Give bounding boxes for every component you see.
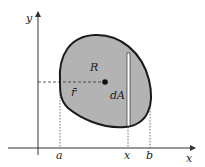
- strip-da: [127, 53, 130, 126]
- region-label: R: [89, 61, 98, 74]
- x-axis-label: x: [186, 152, 193, 165]
- strip-label: dA: [110, 89, 125, 102]
- area-centroid-diagram: y x R r̄ dA a x b: [0, 0, 205, 167]
- y-axis-label: y: [25, 12, 33, 25]
- centroid-point: [102, 79, 108, 85]
- tick-a-label: a: [56, 149, 63, 162]
- tick-x-label: x: [124, 149, 131, 162]
- tick-b-label: b: [146, 149, 153, 162]
